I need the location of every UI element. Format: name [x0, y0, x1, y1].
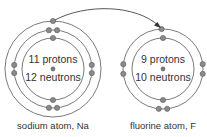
sodium-neutrons-text: 12 neutrons [25, 71, 80, 83]
sodium-electron [54, 105, 59, 110]
fluorine-atom: 9 protons 10 neutrons fluorine atom, F [121, 26, 206, 131]
ionic-bonding-diagram: 11 protons 12 neutrons sodium atom, Na 9… [0, 0, 207, 137]
fluorine-label: fluorine atom, F [130, 120, 196, 131]
sodium-electron [50, 35, 55, 40]
fluorine-electron [121, 62, 126, 67]
sodium-electron [12, 62, 17, 67]
sodium-electron [50, 18, 55, 23]
fluorine-electron [121, 71, 126, 76]
fluorine-electron [160, 35, 165, 40]
sodium-protons-text: 11 protons [29, 53, 78, 65]
sodium-electron [12, 70, 17, 75]
sodium-electron [46, 28, 51, 33]
fluorine-electron [160, 97, 165, 102]
electron-transfer-arrow [55, 9, 159, 26]
sodium-electron [89, 70, 94, 75]
fluorine-electron [156, 106, 161, 111]
fluorine-neutrons-text: 10 neutrons [135, 71, 190, 83]
fluorine-electron [165, 106, 170, 111]
fluorine-electron [200, 71, 205, 76]
sodium-atom: 11 protons 12 neutrons sodium atom, Na [5, 18, 101, 131]
fluorine-electron [200, 62, 205, 67]
sodium-label: sodium atom, Na [17, 120, 90, 131]
sodium-electron [46, 105, 51, 110]
sodium-electron [50, 97, 55, 102]
fluorine-protons-text: 9 protons [141, 53, 185, 65]
sodium-electron [89, 62, 94, 67]
sodium-electron [54, 28, 59, 33]
